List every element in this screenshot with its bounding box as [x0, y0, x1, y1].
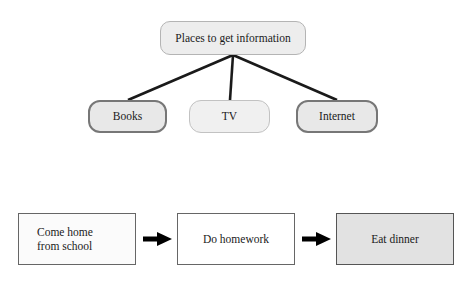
- tree-node-internet-label: Internet: [319, 109, 355, 123]
- tree-node-internet[interactable]: Internet: [296, 100, 378, 133]
- flow-step-eat-dinner[interactable]: Eat dinner: [336, 213, 454, 265]
- flow-step-come-home[interactable]: Come home from school: [18, 213, 136, 265]
- tree-node-tv[interactable]: TV: [189, 100, 270, 133]
- diagram-canvas: Places to get information Books TV Inter…: [0, 0, 471, 290]
- tree-node-root-label: Places to get information: [175, 31, 290, 45]
- tree-node-books[interactable]: Books: [88, 100, 167, 133]
- tree-edge-root-to-books: [128, 55, 233, 100]
- tree-node-books-label: Books: [113, 109, 142, 123]
- flow-step-come-home-label: Come home from school: [37, 225, 93, 254]
- tree-edge-root-to-tv: [230, 55, 233, 100]
- flow-step-do-homework[interactable]: Do homework: [177, 213, 295, 265]
- tree-node-tv-label: TV: [222, 109, 237, 123]
- flow-arrow-do-homework-to-eat-dinner: [302, 232, 331, 246]
- tree-node-root[interactable]: Places to get information: [160, 21, 306, 55]
- flow-step-do-homework-label: Do homework: [203, 232, 269, 246]
- flow-arrow-come-home-to-do-homework: [143, 232, 172, 246]
- tree-edge-root-to-internet: [233, 55, 337, 100]
- flow-step-eat-dinner-label: Eat dinner: [371, 232, 419, 246]
